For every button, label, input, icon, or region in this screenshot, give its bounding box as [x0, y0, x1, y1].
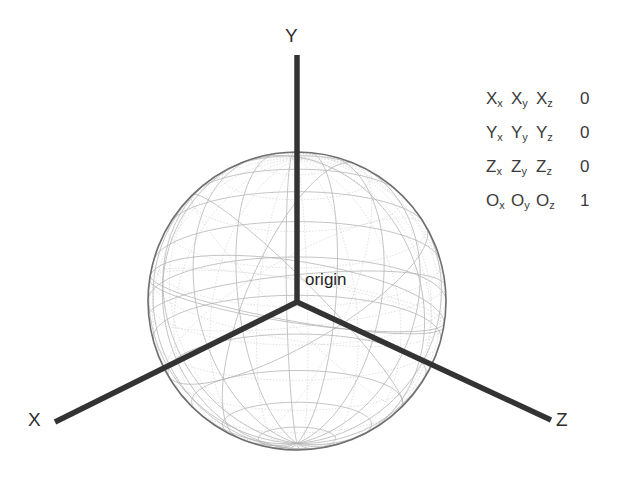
- z-axis-label: Z: [556, 410, 568, 429]
- matrix-cell: Ox: [486, 191, 511, 211]
- matrix-cell: Yy: [511, 123, 536, 143]
- matrix-value: 0: [580, 157, 602, 177]
- matrix-row: Ox Oy Oz 1: [486, 184, 602, 218]
- transform-matrix: Xx Xy Xz 0 Yx Yy Yz 0 Zx Zy Zz 0 Ox Oy O…: [486, 82, 602, 218]
- matrix-cell: Oz: [536, 191, 561, 211]
- matrix-value: 0: [580, 89, 602, 109]
- x-axis-line: [55, 302, 297, 422]
- axes-group: [0, 0, 626, 477]
- z-axis-line: [297, 302, 551, 420]
- matrix-cell: Xy: [511, 89, 536, 109]
- matrix-value: 0: [580, 123, 602, 143]
- matrix-cell: Xx: [486, 89, 511, 109]
- matrix-row: Zx Zy Zz 0: [486, 150, 602, 184]
- x-axis-label: X: [28, 410, 41, 429]
- matrix-cell: Zz: [536, 157, 561, 177]
- matrix-row: Xx Xy Xz 0: [486, 82, 602, 116]
- y-axis-label: Y: [285, 26, 298, 45]
- matrix-cell: Yx: [486, 123, 511, 143]
- matrix-cell: Zx: [486, 157, 511, 177]
- matrix-cell: Oy: [511, 191, 536, 211]
- matrix-cell: Xz: [536, 89, 561, 109]
- matrix-row: Yx Yy Yz 0: [486, 116, 602, 150]
- origin-label: origin: [305, 270, 347, 290]
- matrix-cell: Yz: [536, 123, 561, 143]
- diagram-canvas: Y X Z origin Xx Xy Xz 0 Yx Yy Yz 0 Zx Zy…: [0, 0, 626, 477]
- matrix-value: 1: [580, 191, 602, 211]
- matrix-cell: Zy: [511, 157, 536, 177]
